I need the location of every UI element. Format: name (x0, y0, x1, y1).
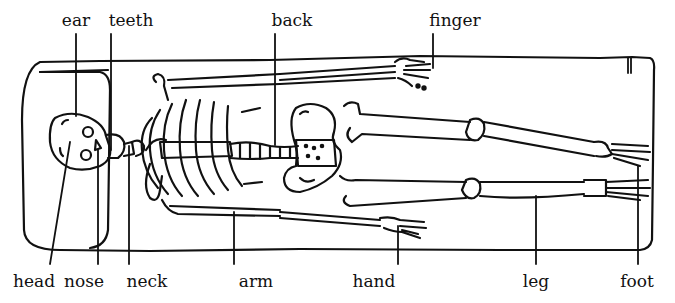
lower-arm (146, 164, 426, 238)
lower-leg (340, 176, 650, 206)
upper-arm (153, 58, 430, 100)
skeleton-diagram: ear teeth back finger head nose neck arm… (0, 0, 675, 303)
pelvis (284, 104, 341, 192)
label-finger: finger (429, 12, 480, 29)
label-nose: nose (64, 273, 104, 290)
label-neck: neck (127, 273, 168, 290)
label-teeth: teeth (109, 12, 154, 29)
label-leg: leg (523, 273, 549, 290)
label-head: head (13, 273, 55, 290)
label-hand: hand (353, 273, 396, 290)
label-ear: ear (62, 12, 90, 29)
label-arm: arm (239, 273, 273, 290)
spine (230, 142, 298, 159)
skeleton-illustration (0, 0, 675, 303)
upper-leg (344, 102, 650, 166)
label-back: back (272, 12, 313, 29)
rib-cage (142, 100, 262, 196)
skull (50, 114, 125, 170)
label-foot: foot (620, 273, 654, 290)
